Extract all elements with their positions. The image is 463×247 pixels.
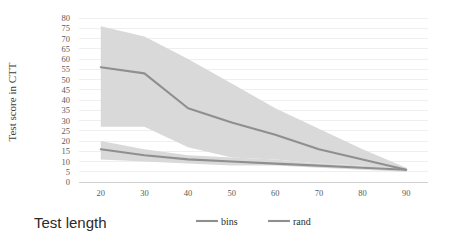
x-tick-label: 90 [402, 188, 411, 198]
y-axis-tick-labels: 05101520253035404550556065707580 [62, 13, 71, 187]
y-tick-label: 50 [62, 75, 71, 85]
x-tick-label: 70 [315, 188, 324, 198]
x-tick-label: 40 [184, 188, 193, 198]
y-tick-label: 30 [62, 116, 71, 126]
y-tick-label: 15 [62, 146, 71, 156]
y-tick-label: 45 [62, 85, 71, 95]
x-tick-label: 60 [271, 188, 280, 198]
x-axis-title: Test length [34, 214, 107, 231]
y-axis-title: Test score in CTT [6, 62, 18, 141]
y-tick-label: 35 [62, 105, 71, 115]
x-tick-label: 30 [140, 188, 149, 198]
y-tick-label: 65 [62, 44, 71, 54]
y-tick-label: 80 [62, 13, 71, 23]
y-tick-label: 40 [62, 95, 71, 105]
y-tick-label: 10 [62, 157, 71, 167]
y-tick-label: 5 [66, 167, 70, 177]
x-tick-label: 20 [97, 188, 106, 198]
y-tick-label: 55 [62, 64, 71, 74]
y-tick-label: 20 [62, 136, 71, 146]
x-tick-label: 80 [358, 188, 367, 198]
legend-label-rand: rand [293, 216, 311, 227]
x-tick-label: 50 [227, 188, 236, 198]
legend-label-bins: bins [221, 216, 238, 227]
y-tick-label: 60 [62, 54, 71, 64]
y-tick-label: 25 [62, 126, 71, 136]
y-tick-label: 70 [62, 34, 71, 44]
y-tick-label: 75 [62, 23, 71, 33]
y-tick-label: 0 [66, 177, 70, 187]
chart-figure: Test score in CTT 0510152025303540455055… [0, 0, 463, 247]
